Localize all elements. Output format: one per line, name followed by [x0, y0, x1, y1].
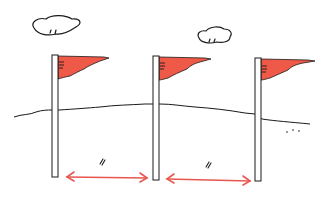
interval-arrow-1: [67, 172, 147, 182]
equal-interval-mark: [206, 162, 211, 168]
flag-2: [153, 56, 211, 180]
flag-1: [52, 55, 109, 177]
cloud-icon: [198, 27, 231, 43]
interval-arrow-2: [167, 174, 250, 185]
flags-illustration: [0, 0, 327, 211]
continuation-dots: [286, 129, 300, 133]
equal-interval-mark: [100, 159, 105, 165]
cloud-icon: [33, 16, 80, 35]
